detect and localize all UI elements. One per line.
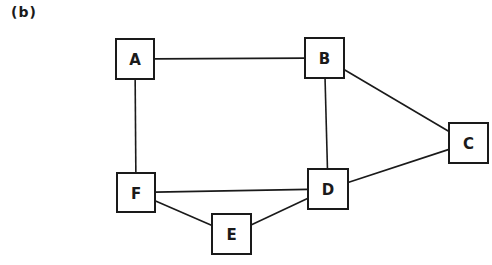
node-label: D [322, 181, 334, 199]
edge-b-c [344, 70, 449, 132]
node-d: D [308, 169, 348, 209]
node-a: A [116, 39, 154, 79]
edge-f-e [155, 201, 212, 226]
node-label: A [129, 51, 141, 69]
node-b: B [305, 38, 344, 78]
edge-c-d [348, 149, 449, 182]
node-label: C [463, 135, 474, 153]
node-label: B [319, 50, 330, 68]
nodes-layer: ABCDEF [116, 38, 488, 254]
node-f: F [117, 173, 155, 212]
node-label: F [131, 185, 141, 203]
edges-layer [135, 58, 449, 225]
node-e: E [212, 214, 251, 254]
edge-e-d [251, 198, 308, 225]
edge-a-f [135, 79, 136, 173]
network-graph: ABCDEF [0, 0, 492, 265]
edge-a-b [154, 58, 305, 59]
edge-b-d [325, 78, 327, 169]
edge-f-d [155, 189, 308, 192]
node-c: C [449, 123, 488, 163]
node-label: E [226, 226, 236, 244]
